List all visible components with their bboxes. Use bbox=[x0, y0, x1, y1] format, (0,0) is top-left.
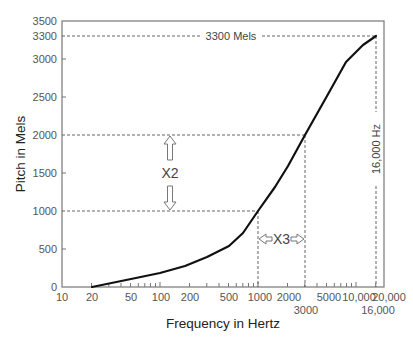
y-tick-1500: 1500 bbox=[33, 167, 57, 179]
label-x3: X3 bbox=[273, 231, 290, 247]
y-tick-2500: 2500 bbox=[33, 91, 57, 103]
y-tick-3000: 3000 bbox=[33, 53, 57, 65]
y-tick-500: 500 bbox=[39, 243, 57, 255]
x-tick-50: 50 bbox=[125, 291, 137, 303]
x-tick-100: 100 bbox=[152, 291, 170, 303]
x-axis-title: Frequency in Hertz bbox=[166, 316, 280, 331]
y-tick-1000: 1000 bbox=[33, 205, 57, 217]
y-tick-3300: 3300 bbox=[33, 30, 57, 42]
x-tick-10: 10 bbox=[56, 291, 68, 303]
x-tick-labels: 10 20 50 100 200 500 1000 2000 3000 5000… bbox=[56, 291, 406, 316]
label-3300-mels: 3300 Mels bbox=[206, 30, 257, 42]
x-tick-500: 500 bbox=[220, 291, 238, 303]
x-tick-200: 200 bbox=[181, 291, 199, 303]
x-tick-20000: 20,000 bbox=[372, 291, 406, 303]
x-tick-10000: 10,000 bbox=[342, 291, 376, 303]
mel-scale-chart: 0 500 1000 1500 2000 2500 3000 3300 3500 bbox=[0, 0, 413, 340]
plot-area bbox=[62, 21, 384, 287]
x-tick-1000: 1000 bbox=[248, 291, 272, 303]
x-tick-2000: 2000 bbox=[277, 291, 301, 303]
y-tick-labels: 0 500 1000 1500 2000 2500 3000 3300 3500 bbox=[33, 15, 57, 293]
y-tick-2000: 2000 bbox=[33, 129, 57, 141]
label-16000-hz: 16,000 Hz bbox=[370, 124, 382, 174]
y-axis-title: Pitch in Mels bbox=[13, 115, 28, 192]
x-tick-5000: 5000 bbox=[317, 291, 341, 303]
x-tick-16000: 16,000 bbox=[361, 304, 395, 316]
y-tick-3500: 3500 bbox=[33, 15, 57, 27]
label-x2: X2 bbox=[161, 165, 178, 181]
x-tick-20: 20 bbox=[86, 291, 98, 303]
x-tick-3000: 3000 bbox=[294, 304, 318, 316]
